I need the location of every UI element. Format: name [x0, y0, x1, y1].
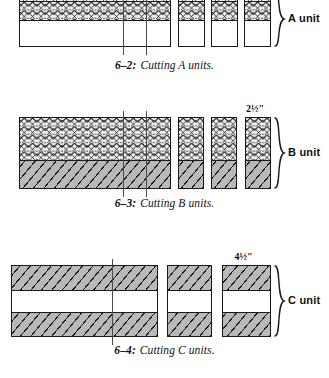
figure-6-2-caption-text: Cutting A units. [140, 59, 214, 71]
fig-6-2-uncut-strip-x-print-band [20, 1, 170, 20]
fig-6-3-uncut-strip-x-print-band [20, 118, 170, 160]
fig-6-4-unit-label: C unit [288, 294, 320, 306]
fig-6-4-cut-piece-1 [167, 265, 212, 337]
fig-6-2-cut-piece-2 [211, 0, 238, 47]
figure-6-3: 2½"B unit [0, 117, 329, 189]
fig-6-2-cut-piece-1-x-print-band [179, 1, 204, 20]
figure-6-3-caption-number: 6–3: [115, 197, 136, 209]
fig-6-3-uncut-strip [19, 117, 171, 189]
figure-6-4-strips: 4½"C unit [0, 265, 329, 335]
fig-6-3-cut-piece-2-x-print-band [212, 118, 236, 160]
figure-6-2: A unit [0, 0, 329, 63]
figure-6-2-caption-number: 6–2: [115, 59, 136, 71]
fig-6-4-dimension-label: 4½" [235, 251, 253, 262]
figure-6-4-caption-text: Cutting C units. [140, 344, 215, 356]
fig-6-4-uncut-strip-plain-band-middle [12, 290, 157, 312]
fig-6-2-uncut-strip-plain-band [20, 20, 170, 46]
figure-6-3-caption: 6–3:Cutting B units. [0, 197, 329, 209]
fig-6-3-cut-piece-2-hatch-band [212, 160, 236, 188]
fig-6-3-cut-piece-1 [178, 117, 204, 189]
fig-6-2-cut-piece-1 [178, 0, 205, 47]
fig-6-3-cut-line-2 [146, 111, 147, 197]
fig-6-4-cut-piece-1-hatch-band-top [168, 266, 211, 290]
fig-6-4-cut-piece-2-hatch-band-top [223, 266, 270, 290]
fig-6-2-brace-icon [273, 0, 286, 51]
figure-6-3-strips: 2½"B unit [0, 117, 329, 189]
fig-6-2-cut-line-1 [123, 0, 124, 55]
fig-6-2-unit-label: A unit [288, 12, 320, 24]
fig-6-3-unit-label: B unit [288, 146, 320, 158]
figure-6-2-caption: 6–2:Cutting A units. [0, 59, 329, 71]
figure-6-2-strips: A unit [0, 0, 329, 63]
figure-6-4-caption: 6–4:Cutting C units. [0, 344, 329, 356]
fig-6-4-brace-icon [273, 265, 286, 341]
fig-6-2-cut-line-2 [146, 0, 147, 55]
figure-6-3-caption-text: Cutting B units. [140, 197, 214, 209]
fig-6-2-cut-piece-2-plain-band [212, 20, 237, 46]
fig-6-2-cut-piece-3-plain-band [245, 20, 270, 46]
fig-6-4-cut-piece-1-plain-band-middle [168, 290, 211, 312]
fig-6-4-uncut-strip-hatch-band-top [12, 266, 157, 290]
fig-6-4-cut-piece-1-hatch-band-bottom [168, 312, 211, 336]
fig-6-3-cut-piece-3 [245, 117, 271, 189]
fig-6-3-cut-piece-3-hatch-band [246, 160, 270, 188]
fig-6-2-cut-piece-2-x-print-band [212, 1, 237, 20]
fig-6-4-uncut-strip [11, 265, 158, 337]
fig-6-3-dimension-label: 2½" [246, 103, 264, 114]
fig-6-4-cut-piece-2-hatch-band-bottom [223, 312, 270, 336]
fig-6-4-cut-piece-2-plain-band-middle [223, 290, 270, 312]
fig-6-3-cut-piece-3-x-print-band [246, 118, 270, 160]
figure-6-4-caption-number: 6–4: [114, 344, 135, 356]
fig-6-3-uncut-strip-hatch-band [20, 160, 170, 188]
fig-6-4-cut-line-1 [112, 259, 113, 345]
figure-6-4: 4½"C unit [0, 265, 329, 335]
fig-6-4-uncut-strip-hatch-band-bottom [12, 312, 157, 336]
fig-6-2-cut-piece-1-plain-band [179, 20, 204, 46]
fig-6-2-cut-piece-3-x-print-band [245, 1, 270, 20]
fig-6-3-cut-line-1 [123, 111, 124, 197]
fig-6-4-cut-piece-2 [222, 265, 271, 337]
fig-6-3-brace-icon [273, 117, 286, 193]
fig-6-2-uncut-strip [19, 0, 171, 47]
fig-6-3-cut-piece-1-hatch-band [179, 160, 203, 188]
fig-6-2-cut-piece-3 [244, 0, 271, 47]
fig-6-3-cut-piece-2 [211, 117, 237, 189]
fig-6-3-cut-piece-1-x-print-band [179, 118, 203, 160]
